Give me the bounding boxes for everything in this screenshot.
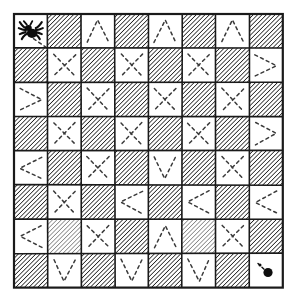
board-cell-r7-c5[interactable] <box>148 219 182 253</box>
board-cell-r2-c1[interactable] <box>14 48 48 82</box>
board-cell-r2-c8[interactable] <box>249 48 283 82</box>
board-cell-r1-c4[interactable] <box>115 14 149 48</box>
board-cell-r6-c5[interactable] <box>148 185 182 219</box>
board-cell-r7-c6[interactable] <box>182 219 216 253</box>
board-cell-r3-c4[interactable] <box>115 82 149 116</box>
board-cell-r8-c6[interactable] <box>182 253 216 287</box>
fly-body <box>263 268 272 277</box>
board-cell-r6-c8[interactable] <box>249 185 283 219</box>
board-cell-r4-c5[interactable] <box>148 117 182 151</box>
board-cell-r4-c7[interactable] <box>216 117 250 151</box>
board-cell-r1-c3[interactable] <box>81 14 115 48</box>
board-cell-r7-c4[interactable] <box>115 219 149 253</box>
board-cell-r1-c2[interactable] <box>48 14 82 48</box>
board-cell-r3-c6[interactable] <box>182 82 216 116</box>
board-cell-r2-c7[interactable] <box>216 48 250 82</box>
board-cell-r6-c7[interactable] <box>216 185 250 219</box>
board-cell-r5-c2[interactable] <box>48 151 82 185</box>
board-cell-r5-c4[interactable] <box>115 151 149 185</box>
board-cell-r3-c1[interactable] <box>14 82 48 116</box>
board-cell-r8-c7[interactable] <box>216 253 250 287</box>
board-cell-r8-c1[interactable] <box>14 253 48 287</box>
board-cell-r7-c8[interactable] <box>249 219 283 253</box>
board-cell-r6-c1[interactable] <box>14 185 48 219</box>
board-cell-r7-c2[interactable] <box>48 219 82 253</box>
board-cell-r3-c2[interactable] <box>48 82 82 116</box>
board-cell-r2-c5[interactable] <box>148 48 182 82</box>
board-cell-r7-c1[interactable] <box>14 219 48 253</box>
board-cell-r5-c8[interactable] <box>249 151 283 185</box>
board-cell-r1-c6[interactable] <box>182 14 216 48</box>
board-cell-r5-c5[interactable] <box>148 151 182 185</box>
board-cell-r8-c3[interactable] <box>81 253 115 287</box>
board-cell-r4-c1[interactable] <box>14 117 48 151</box>
board-cell-r1-c5[interactable] <box>148 14 182 48</box>
board-cell-r3-c8[interactable] <box>249 82 283 116</box>
board-cell-r4-c3[interactable] <box>81 117 115 151</box>
board-cell-r4-c8[interactable] <box>249 117 283 151</box>
figure-canvas <box>0 0 296 307</box>
board-cell-r5-c1[interactable] <box>14 151 48 185</box>
board-cell-r6-c6[interactable] <box>182 185 216 219</box>
grid-line-horizontal-7 <box>14 253 283 254</box>
board-cell-r1-c7[interactable] <box>216 14 250 48</box>
board-cell-r8-c2[interactable] <box>48 253 82 287</box>
fly-trail-dot <box>259 264 262 267</box>
board-cell-r1-c8[interactable] <box>249 14 283 48</box>
spider-head <box>25 25 32 31</box>
board-cell-r8-c4[interactable] <box>115 253 149 287</box>
board-cell-r6-c4[interactable] <box>115 185 149 219</box>
board-cell-r2-c3[interactable] <box>81 48 115 82</box>
checkerboard-figure <box>0 0 296 307</box>
board-cell-r8-c5[interactable] <box>148 253 182 287</box>
board-cell-r6-c3[interactable] <box>81 185 115 219</box>
board-cell-r5-c6[interactable] <box>182 151 216 185</box>
grid-line-horizontal-5 <box>14 185 283 186</box>
